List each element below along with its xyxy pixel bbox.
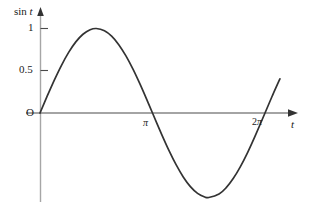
x-axis-label: t <box>291 119 294 130</box>
plot-canvas <box>0 0 311 219</box>
y-axis-label-variable: t <box>30 5 33 17</box>
origin-label: O <box>26 107 34 118</box>
y-axis-arrow-icon <box>37 7 44 16</box>
x-axis-arrow-icon <box>288 109 298 117</box>
x-tick-label-pi: π <box>143 118 148 128</box>
x-tick-label-2pi-symbol: π <box>257 116 262 127</box>
y-axis-label: sin t <box>14 6 33 17</box>
y-tick-label-1: 1 <box>28 22 34 33</box>
y-tick-label-05: 0.5 <box>19 64 33 75</box>
sine-wave-figure: sin t 1 0.5 O π 2π t <box>0 0 311 219</box>
x-tick-label-2pi: 2π <box>252 117 262 127</box>
y-axis-label-prefix: sin <box>14 5 30 17</box>
